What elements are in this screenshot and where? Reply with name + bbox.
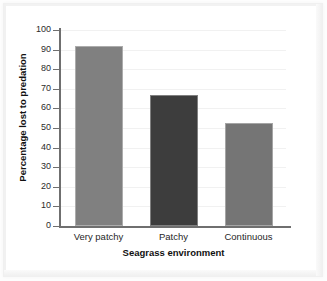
chart-screenshot: Percentage lost to predation 01020304050…	[0, 0, 327, 281]
y-axis-tick-label: 10	[25, 201, 51, 210]
y-axis-tick-label: 40	[25, 143, 51, 152]
plot-area	[61, 30, 286, 226]
y-axis-tick-label: 70	[25, 84, 51, 93]
x-axis-tick-label: Continuous	[194, 231, 304, 242]
frame-edge-bottom	[4, 270, 322, 276]
y-axis-tick-label: 60	[25, 103, 51, 112]
x-axis-line	[59, 226, 291, 228]
y-axis-tick-label: 20	[25, 182, 51, 191]
y-axis-tick-label: 100	[25, 25, 51, 34]
bar	[150, 95, 198, 226]
frame-edge-right	[316, 4, 322, 276]
frame-edge-left	[4, 4, 6, 276]
x-axis-title: Seagrass environment	[61, 247, 286, 258]
y-axis-tick-label: 30	[25, 162, 51, 171]
bar	[225, 123, 273, 226]
frame-edge-top	[4, 4, 322, 6]
y-axis-tick-label: 80	[25, 64, 51, 73]
y-axis-tick-label: 0	[25, 221, 51, 230]
y-axis-tick-label: 90	[25, 45, 51, 54]
y-axis-tick-label: 50	[25, 123, 51, 132]
gridline	[61, 30, 286, 31]
bar	[75, 46, 123, 226]
